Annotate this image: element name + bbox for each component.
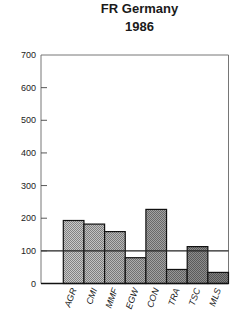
bar-tsc — [187, 247, 208, 284]
x-tick-label-mls: MLS — [207, 287, 223, 308]
bar-con — [146, 209, 167, 283]
x-axis: AGRCMIMMFEGWCONTRATSCMLS — [62, 285, 223, 310]
bar-chart: 0100200300400500600700 AGRCMIMMFEGWCONTR… — [0, 0, 239, 318]
bar-egw — [125, 258, 146, 284]
y-tick-label: 300 — [21, 181, 36, 191]
y-tick-label: 500 — [21, 115, 36, 125]
bar-cmi — [84, 224, 105, 283]
bar-tra — [167, 269, 188, 283]
y-tick-label: 700 — [21, 50, 36, 60]
y-tick-label: 0 — [31, 279, 36, 289]
x-tick-label-agr: AGR — [62, 286, 79, 309]
y-tick-label: 100 — [21, 246, 36, 256]
x-tick-label-tra: TRA — [166, 287, 182, 307]
bar-mls — [208, 272, 229, 283]
x-tick-label-tsc: TSC — [187, 286, 203, 307]
bars — [63, 209, 228, 283]
x-tick-label-egw: EGW — [124, 285, 141, 310]
y-tick-label: 600 — [21, 83, 36, 93]
bar-agr — [63, 220, 84, 283]
y-tick-label: 200 — [21, 213, 36, 223]
x-tick-label-cmi: CMI — [84, 286, 99, 305]
x-tick-label-con: CON — [145, 286, 161, 309]
x-tick-label-mmf: MMF — [103, 286, 120, 309]
bar-mmf — [105, 232, 126, 284]
y-tick-label: 400 — [21, 148, 36, 158]
